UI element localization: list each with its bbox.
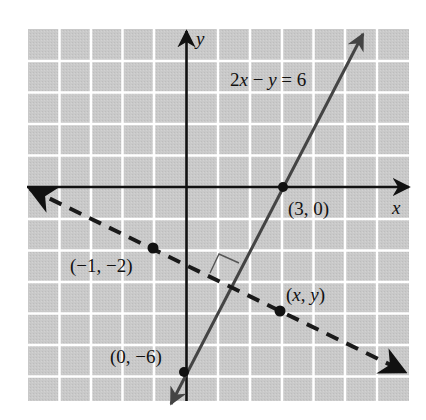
equation-label: 2x − y = 6	[230, 69, 306, 90]
label-x-y: (x, y)	[286, 284, 325, 306]
label-minus-1-minus-2: (−1, −2)	[70, 255, 133, 277]
point-3-0	[278, 182, 288, 192]
point-minus-1-minus-2	[148, 243, 159, 254]
x-axis-label: x	[391, 197, 401, 218]
label-0-minus-6: (0, −6)	[110, 346, 162, 368]
point-0-minus-6	[179, 367, 189, 377]
point-x-y	[275, 306, 286, 317]
coordinate-plane-figure: y x 2x − y = 6 (3, 0) (−1, −2) (0, −6) (…	[0, 0, 426, 420]
y-axis-label: y	[194, 28, 205, 49]
label-3-0: (3, 0)	[288, 198, 329, 220]
